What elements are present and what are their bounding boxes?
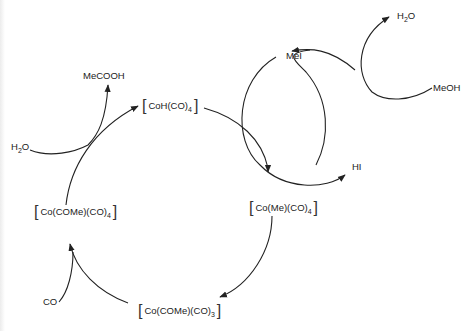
arrow-coh-to-come	[204, 108, 268, 172]
bracket-close: ]	[194, 98, 198, 114]
reaction-cycle-arrows	[0, 0, 467, 331]
label-h2o-top: H2O	[397, 11, 415, 21]
label-co: CO	[43, 297, 57, 307]
bracket-close: ]	[217, 303, 221, 319]
species-co-come-co3: [ Co(COMe)(CO)3 ]	[138, 303, 221, 319]
label-hi: HI	[352, 162, 362, 172]
label-h2o-left: H2O	[11, 142, 29, 152]
arrow-mei-left	[242, 57, 345, 185]
arrow-come-to-comeco3	[220, 216, 272, 297]
arrow-meoh-in	[361, 17, 432, 99]
species-coh-co4: [ CoH(CO)4 ]	[142, 98, 198, 114]
species-co-come-co4: [ Co(COMe)(CO)4 ]	[34, 204, 117, 220]
arrow-co-in	[59, 252, 73, 302]
bracket-close: ]	[113, 204, 117, 220]
bracket-close: ]	[314, 200, 318, 216]
arrow-comeco3-to-comeco4	[70, 244, 128, 303]
label-mecooh: MeCOOH	[83, 71, 125, 81]
label-meoh: MeOH	[433, 83, 460, 93]
label-mei: MeI	[286, 51, 302, 61]
arrow-hi-to-mei	[294, 50, 326, 165]
arrow-h2o-in	[30, 85, 108, 154]
species-co-me-co4: [ Co(Me)(CO)4 ]	[249, 200, 318, 216]
